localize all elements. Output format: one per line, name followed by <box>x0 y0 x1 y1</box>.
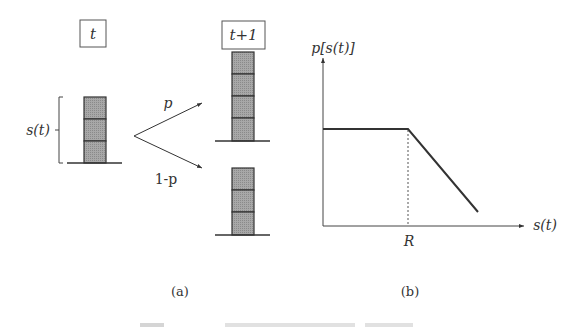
x-axis-label: s(t) <box>533 217 557 233</box>
time-t-label: t <box>90 25 97 43</box>
y-axis-label: p[s(t)] <box>311 40 355 56</box>
branch-up-label: p <box>164 95 173 111</box>
size-label: s(t) <box>26 122 50 138</box>
time-t1-label: t+1 <box>229 26 257 44</box>
branch-down-label: 1-p <box>155 171 178 187</box>
branch-down-arrow <box>134 136 202 168</box>
truncated-caption <box>140 323 413 327</box>
panel-a-label: (a) <box>171 284 189 299</box>
panel-a: t t+1 s(t) p 1-p <box>26 20 270 299</box>
panel-b-label: (b) <box>401 284 419 299</box>
panel-b: p[s(t)] s(t) R (b) <box>311 40 557 299</box>
stack-t <box>67 97 122 163</box>
threshold-label: R <box>403 233 415 249</box>
stack-up <box>215 52 270 141</box>
figure: t t+1 s(t) p 1-p <box>0 0 581 327</box>
probability-curve <box>323 129 478 212</box>
stack-down <box>215 168 270 235</box>
size-bracket <box>55 97 63 163</box>
